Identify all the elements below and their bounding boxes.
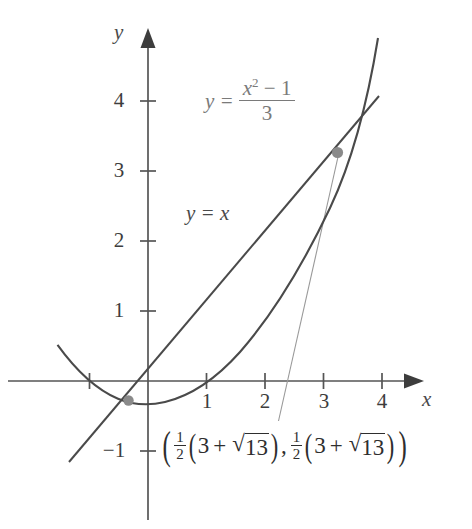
numerator-variable: x [243, 76, 252, 100]
y-tick-label-1: 1 [108, 300, 130, 321]
second-radicand: 13 [361, 433, 385, 461]
intersection-point-upper [332, 147, 343, 158]
graph-figure: y x y = x2 − 1 3 y = x 1 2 3 4 4 3 2 1 −… [0, 0, 472, 529]
second-three: 3 [314, 433, 326, 459]
outer-open-paren: ( [163, 430, 171, 462]
numerator-exponent: 2 [252, 75, 259, 90]
intersection-coordinate-annotation: ( 1 2 ( 3 + √ 13 ) , 1 2 ( 3 + √ 13 ) ) [160, 430, 410, 463]
first-inner-open-paren: ( [189, 433, 196, 459]
first-inner-close-paren: ) [271, 433, 278, 459]
second-radical: √ 13 [349, 432, 386, 461]
second-plus: + [330, 433, 343, 459]
x-tick-label-2: 2 [254, 391, 276, 412]
y-axis-arrowhead [141, 28, 156, 48]
y-tick-label-3: 3 [108, 160, 130, 181]
x-tick-label-1: 1 [196, 391, 218, 412]
x-tick-label-3: 3 [313, 391, 335, 412]
y-tick-label-4: 4 [108, 90, 130, 111]
first-radical-sign: √ [232, 432, 245, 461]
first-radical: √ 13 [232, 432, 269, 461]
second-radical-sign: √ [349, 432, 362, 461]
y-tick-label-2: 2 [108, 230, 130, 251]
second-frac-numerator: 1 [291, 430, 303, 446]
first-plus: + [213, 433, 226, 459]
first-radicand: 13 [245, 433, 269, 461]
second-frac-denominator: 2 [293, 446, 301, 462]
parabola-equation-fraction: x2 − 1 3 [239, 78, 296, 124]
first-frac-denominator: 2 [176, 446, 184, 462]
intersection-point-lower [123, 395, 133, 405]
line-equation-label: y = x [186, 203, 229, 224]
numerator-rest: − 1 [264, 76, 292, 100]
y-tick-label-minus-1: −1 [96, 440, 132, 461]
second-inner-close-paren: ) [387, 433, 394, 459]
fraction-numerator: x2 − 1 [239, 78, 296, 101]
fraction-denominator: 3 [262, 101, 273, 124]
parabola-equation-lhs: y = [205, 91, 234, 112]
first-three: 3 [198, 433, 210, 459]
second-half-fraction: 1 2 [291, 430, 303, 463]
coordinate-comma: , [281, 433, 287, 459]
x-axis-label: x [422, 389, 431, 410]
first-half-fraction: 1 2 [174, 430, 186, 463]
x-tick-label-4: 4 [371, 391, 393, 412]
second-inner-open-paren: ( [305, 433, 312, 459]
parabola-equation-label: y = x2 − 1 3 [205, 78, 295, 124]
x-axis-arrowhead [404, 374, 424, 389]
outer-close-paren: ) [399, 430, 407, 462]
y-axis-label: y [114, 22, 123, 43]
first-frac-numerator: 1 [174, 430, 186, 446]
